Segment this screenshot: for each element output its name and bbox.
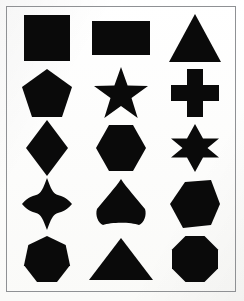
cross-greek-icon (171, 69, 219, 117)
shape-cell-cross-greek (158, 65, 232, 120)
square-icon (24, 15, 70, 61)
shape-chart-sheet (0, 0, 244, 301)
pentagon-icon (22, 69, 72, 117)
shape-cell-octagon (158, 231, 232, 286)
shape-cell-hexagon-irregular (158, 176, 232, 231)
octagon-icon (172, 236, 218, 282)
star-4-point-icon (22, 178, 72, 230)
star-6-point-icon (171, 124, 219, 172)
shape-cell-star-6-point (158, 120, 232, 176)
triangle-rounded-icon (95, 179, 147, 229)
shape-cell-hexagon-flat-top (84, 120, 158, 176)
shape-cell-rectangle (84, 10, 158, 65)
shape-grid (6, 6, 236, 292)
rectangle-icon (92, 21, 150, 55)
shape-cell-heptagon (10, 231, 84, 286)
triangle-tall-icon (169, 14, 221, 62)
hexagon-irregular-icon (170, 180, 220, 228)
shape-cell-triangle-tall (158, 10, 232, 65)
shape-cell-triangle-wide (84, 231, 158, 286)
shape-cell-diamond (10, 120, 84, 176)
shape-cell-pentagon (10, 65, 84, 120)
heptagon-icon (24, 236, 70, 282)
shape-cell-star-4-point (10, 176, 84, 231)
shape-cell-triangle-rounded (84, 176, 158, 231)
triangle-wide-icon (89, 238, 153, 280)
star-5-point-icon (94, 67, 148, 119)
shape-cell-star-5-point (84, 65, 158, 120)
diamond-icon (26, 120, 68, 176)
shape-cell-square (10, 10, 84, 65)
hexagon-flat-top-icon (96, 125, 146, 171)
